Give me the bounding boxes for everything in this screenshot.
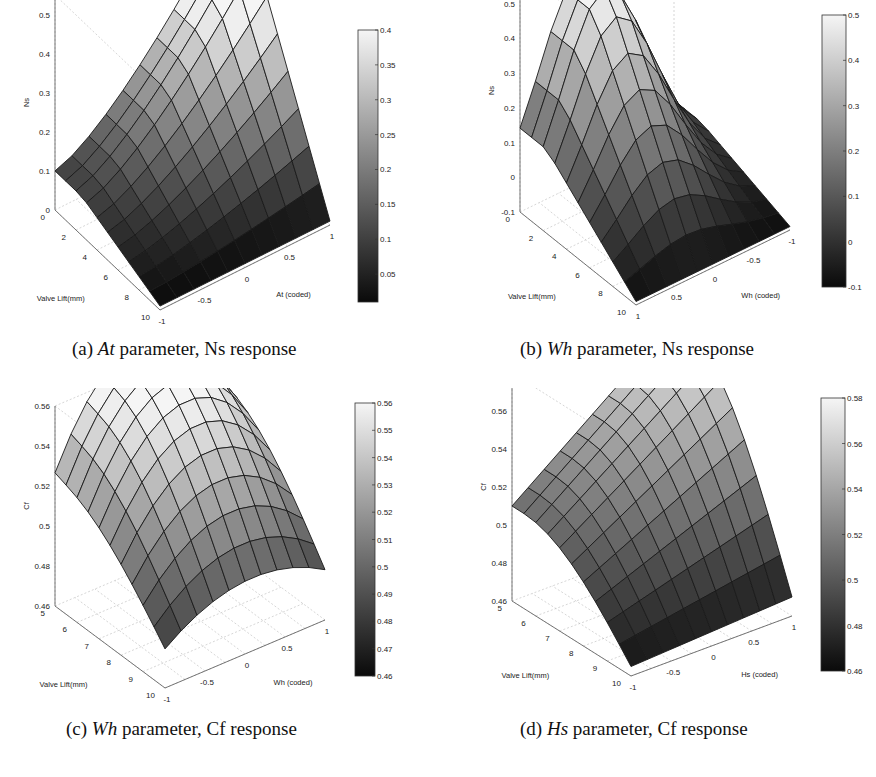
svg-text:0.56: 0.56 (491, 407, 507, 416)
svg-text:0: 0 (848, 238, 853, 247)
svg-text:0.3: 0.3 (39, 89, 51, 98)
surface-plot-d: -1-0.500.5156789100.460.480.50.520.540.5… (438, 388, 876, 718)
caption-c-suffix: parameter, Cf response (117, 718, 297, 739)
svg-text:0.48: 0.48 (377, 617, 393, 626)
svg-text:0.46: 0.46 (491, 597, 507, 606)
svg-text:4: 4 (83, 253, 88, 262)
z-axis-label: Cf (22, 501, 31, 509)
z-axis-label: Cf (479, 482, 488, 490)
svg-text:1: 1 (792, 623, 797, 632)
svg-text:0.2: 0.2 (848, 147, 860, 156)
svg-text:-0.1: -0.1 (501, 208, 515, 217)
svg-text:0.46: 0.46 (34, 602, 50, 611)
svg-text:6: 6 (63, 625, 68, 634)
caption-d-prefix: (d) (520, 718, 547, 739)
svg-text:0.1: 0.1 (504, 139, 516, 148)
caption-c-param: Wh (92, 718, 117, 739)
svg-text:9: 9 (593, 664, 598, 673)
svg-text:0.1: 0.1 (848, 192, 860, 201)
svg-text:0: 0 (711, 653, 716, 662)
svg-text:0.56: 0.56 (377, 399, 393, 408)
caption-d-param: Hs (547, 718, 568, 739)
svg-text:7: 7 (545, 634, 550, 643)
caption-b: (b) Wh parameter, Ns response (520, 338, 754, 360)
svg-text:1: 1 (325, 627, 330, 636)
surface-plot-c: -1-0.500.5156789100.460.480.50.520.540.5… (0, 388, 438, 718)
svg-text:0: 0 (46, 206, 51, 215)
svg-text:0.5: 0.5 (284, 253, 296, 262)
svg-text:7: 7 (85, 642, 90, 651)
x-axis-label: Wh (coded) (741, 291, 780, 300)
surface-plot-a: -1-0.500.51024681000.10.20.30.40.5At (co… (0, 0, 438, 330)
svg-text:10: 10 (612, 679, 621, 688)
caption-b-prefix: (b) (520, 338, 547, 359)
colorbar-a: 0.40.350.30.250.20.150.10.05 (358, 26, 396, 302)
svg-text:0.54: 0.54 (34, 442, 50, 451)
svg-text:1: 1 (330, 232, 335, 241)
caption-c: (c) Wh parameter, Cf response (66, 718, 297, 740)
svg-text:0.3: 0.3 (848, 102, 860, 111)
svg-text:0.5: 0.5 (496, 521, 508, 530)
z-axis-label: Ns (22, 98, 31, 107)
svg-text:0.5: 0.5 (504, 0, 516, 9)
svg-text:8: 8 (125, 293, 130, 302)
svg-text:0.5: 0.5 (281, 644, 293, 653)
svg-text:-0.5: -0.5 (198, 296, 212, 305)
svg-text:0: 0 (245, 275, 250, 284)
svg-text:0.2: 0.2 (380, 165, 392, 174)
svg-text:0.3: 0.3 (504, 69, 516, 78)
svg-text:0.54: 0.54 (377, 454, 393, 463)
svg-text:0.48: 0.48 (847, 622, 863, 631)
panel-b: 10.50-0.5-10246810-0.100.10.20.30.40.50.… (438, 0, 876, 388)
svg-text:-1: -1 (163, 695, 171, 704)
x-axis-label: At (coded) (276, 290, 311, 299)
svg-text:0.5: 0.5 (377, 563, 389, 572)
svg-text:0.52: 0.52 (34, 482, 50, 491)
caption-d: (d) Hs parameter, Cf response (520, 718, 748, 740)
svg-text:0.15: 0.15 (380, 200, 396, 209)
svg-text:0.4: 0.4 (504, 34, 516, 43)
svg-text:0.4: 0.4 (848, 56, 860, 65)
svg-text:10: 10 (141, 313, 150, 322)
surface-mesh-c (55, 388, 325, 649)
svg-text:-0.1: -0.1 (848, 283, 862, 292)
caption-c-prefix: (c) (66, 718, 92, 739)
svg-text:0.05: 0.05 (380, 270, 396, 279)
svg-text:0.48: 0.48 (491, 559, 507, 568)
svg-text:0.56: 0.56 (847, 440, 863, 449)
svg-text:0.47: 0.47 (377, 645, 393, 654)
svg-text:0.5: 0.5 (39, 11, 51, 20)
surface-plot-b: 10.50-0.5-10246810-0.100.10.20.30.40.50.… (438, 0, 876, 330)
svg-text:-0.5: -0.5 (747, 256, 761, 265)
svg-text:1: 1 (636, 312, 641, 321)
caption-d-suffix: parameter, Cf response (568, 718, 748, 739)
svg-text:-1: -1 (629, 683, 637, 692)
caption-a-prefix: (a) (72, 338, 98, 359)
svg-text:0.3: 0.3 (380, 96, 392, 105)
svg-text:0.2: 0.2 (39, 128, 51, 137)
svg-text:0.48: 0.48 (34, 562, 50, 571)
y-axis-label: Valve Lift(mm) (40, 680, 88, 689)
svg-text:0.1: 0.1 (39, 167, 51, 176)
colorbar-d: 0.580.560.540.520.50.480.46 (821, 394, 863, 676)
svg-text:10: 10 (617, 308, 626, 317)
svg-text:0.56: 0.56 (34, 402, 50, 411)
surface-mesh-d (512, 388, 792, 667)
svg-text:4: 4 (552, 252, 557, 261)
svg-text:9: 9 (129, 675, 134, 684)
svg-text:0.52: 0.52 (847, 531, 863, 540)
svg-text:0.35: 0.35 (380, 61, 396, 70)
caption-b-param: Wh (547, 338, 572, 359)
svg-text:0.52: 0.52 (491, 483, 507, 492)
svg-text:0.4: 0.4 (39, 50, 51, 59)
svg-text:0.1: 0.1 (380, 235, 392, 244)
y-axis-label: Valve Lift(mm) (508, 292, 556, 301)
z-axis-label: Ns (487, 86, 496, 95)
svg-text:6: 6 (104, 273, 109, 282)
svg-text:0: 0 (713, 275, 718, 284)
svg-text:6: 6 (521, 619, 526, 628)
svg-text:8: 8 (598, 289, 603, 298)
svg-text:8: 8 (107, 658, 112, 667)
y-axis-label: Valve Lift(mm) (502, 671, 550, 680)
svg-text:-0.5: -0.5 (666, 668, 680, 677)
